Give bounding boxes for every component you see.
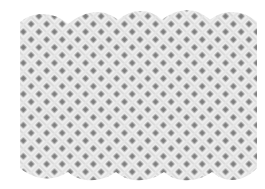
lattice-panel-image bbox=[0, 0, 265, 189]
lattice-panel-graphic bbox=[0, 0, 265, 189]
lattice-body bbox=[0, 0, 265, 189]
